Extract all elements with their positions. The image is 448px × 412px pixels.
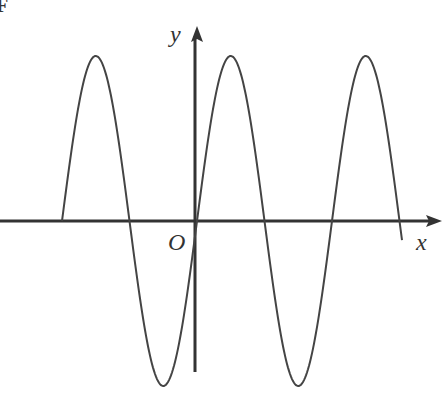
figure-corner-label: F xyxy=(0,0,8,16)
x-axis-label: x xyxy=(415,229,427,255)
origin-label: O xyxy=(168,229,185,255)
y-axis-label: y xyxy=(168,21,181,47)
sine-graph: F y x O xyxy=(0,0,448,412)
y-axis-arrow-icon xyxy=(191,26,203,42)
